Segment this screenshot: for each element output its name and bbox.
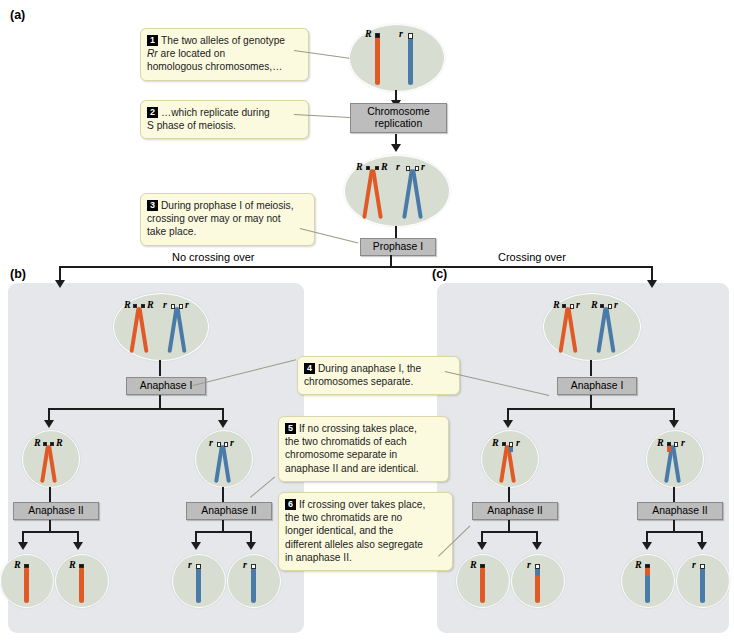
arrow-branch-right [647, 280, 657, 288]
callout-3-line3: take place. [147, 226, 196, 237]
callout-6-line3: longer identical, and the [285, 525, 393, 536]
callout-6-line2: the two chromatids are no [285, 512, 402, 523]
callout-2-line1: …which replicate during [161, 107, 270, 118]
allele-label-b-d-right-r2: r [230, 437, 234, 448]
stage-b-anaphase-2-left: Anaphase II [13, 502, 99, 520]
callout-3-number: 3 [147, 200, 158, 211]
callout-5-line3: chromosome separate in [285, 449, 397, 460]
stage-prophase-1: Prophase I [360, 238, 436, 256]
connector-c-split [507, 408, 674, 410]
branch-label-crossing-over: Crossing over [498, 251, 566, 263]
callout-5: 5If no crossing takes place, the two chr… [278, 416, 449, 482]
allele-label-c-gamete-1: R [470, 559, 477, 570]
allele-label-b-gamete-2: R [69, 559, 76, 570]
allele-label-b-gamete-4: r [243, 559, 247, 570]
stage-chromosome-replication: Chromosome replication [350, 103, 447, 133]
section-label-a: (a) [10, 8, 25, 22]
cell-a-unreplicated [349, 24, 445, 92]
callout-3-line2: crossing over may or may not [147, 213, 281, 224]
allele-label-c-gamete-3: R [635, 559, 642, 570]
callout-4-line1: During anaphase I, the [318, 363, 421, 374]
branch-label-no-crossing-over: No crossing over [172, 251, 255, 263]
arrow-c-g-l1 [477, 542, 487, 550]
allele-label-c-d-left-R: R [492, 437, 499, 448]
arrow-b-split-r [218, 420, 228, 428]
callout-5-line2: the two chromatids of each [285, 436, 407, 447]
allele-label-b-pro-R1: R [124, 299, 131, 310]
connector-b-g-r-bar [195, 531, 251, 533]
section-label-c: (c) [432, 267, 447, 281]
connector-b-2 [159, 395, 161, 409]
arrow-c-split-r [669, 420, 679, 428]
callout-6: 6If crossing over takes place, the two c… [278, 492, 453, 571]
callout-1: 1The two alleles of genotype Rr are loca… [140, 28, 309, 81]
connector-b-1 [159, 360, 161, 376]
allele-label-b-d-left-R2: R [56, 437, 63, 448]
callout-5-line4: anaphase II and are identical. [285, 463, 419, 474]
connector-c-a2-l [508, 487, 510, 502]
callout-2-line2: S phase of meiosis. [147, 120, 236, 131]
connector-c-g-r-bar [646, 531, 702, 533]
arrow-branch-left [55, 280, 65, 288]
allele-label-b-gamete-3: r [188, 559, 192, 570]
allele-label-a-rep-R1: R [356, 161, 363, 172]
allele-label-a-R: R [365, 28, 372, 39]
allele-label-c-d-right-R: R [657, 437, 664, 448]
connector-b-split [48, 408, 223, 410]
allele-label-c-gamete-2: r [527, 559, 531, 570]
arrow-c-g-r1 [642, 542, 652, 550]
connector-b-a2-l [49, 487, 51, 502]
section-label-b: (b) [10, 267, 26, 281]
allele-label-c-pro-R1: R [553, 299, 560, 310]
arrow-b-g-r1 [191, 542, 201, 550]
callout-6-line1: If crossing over takes place, [299, 499, 425, 510]
arrow-b-g-l1 [18, 542, 28, 550]
allele-label-c-d-right-r: r [681, 437, 685, 448]
allele-label-a-rep-r1: r [396, 161, 400, 172]
stage-chromosome-replication-line2: replication [375, 118, 422, 129]
connector-c-2 [590, 395, 592, 409]
arrow-b-g-l2 [73, 542, 83, 550]
allele-label-c-d-left-r: r [516, 437, 520, 448]
callout-1-genotype: Rr [147, 48, 158, 59]
allele-label-a-rep-R2: R [381, 161, 388, 172]
callout-5-number: 5 [285, 423, 296, 434]
stage-b-anaphase-2-right: Anaphase II [186, 502, 272, 520]
stage-c-anaphase-2-right: Anaphase II [637, 502, 723, 520]
allele-label-b-pro-R2: R [147, 299, 154, 310]
callout-2: 2…which replicate during S phase of meio… [140, 100, 309, 139]
allele-label-a-rep-r2: r [421, 161, 425, 172]
connector-c-a2-r [673, 487, 675, 502]
stage-chromosome-replication-line1: Chromosome [367, 106, 429, 117]
arrow-c-split-l [503, 420, 513, 428]
allele-label-b-d-right-r1: r [209, 437, 213, 448]
allele-label-c-gamete-4: r [692, 559, 696, 570]
allele-label-a-r: r [399, 28, 403, 39]
callout-6-line4: different alleles also segregate [285, 539, 423, 550]
connector-c-g-l-bar [481, 531, 537, 533]
stage-c-anaphase-2-left: Anaphase II [472, 502, 558, 520]
callout-6-number: 6 [285, 499, 296, 510]
callout-4-line2: chromosomes separate. [304, 376, 413, 387]
callout-6-line5: in anaphase II. [285, 552, 352, 563]
allele-label-c-pro-R2: R [591, 299, 598, 310]
connector-b-g-l-bar [22, 531, 78, 533]
callout-1-line1: The two alleles of genotype [161, 35, 285, 46]
callout-4-number: 4 [304, 363, 315, 374]
callout-2-number: 2 [147, 107, 158, 118]
allele-label-c-pro-r2: r [614, 299, 618, 310]
callout-3: 3During prophase I of meiosis, crossing … [140, 193, 315, 246]
allele-label-c-pro-r1: r [576, 299, 580, 310]
connector-branch-bar [59, 266, 652, 268]
callout-3-line1: During prophase I of meiosis, [161, 200, 294, 211]
callout-4: 4During anaphase I, the chromosomes sepa… [297, 356, 460, 395]
callout-1-number: 1 [147, 35, 158, 46]
stage-c-anaphase-1: Anaphase I [557, 377, 637, 395]
allele-label-b-pro-r2: r [185, 299, 189, 310]
callout-5-line1: If no crossing takes place, [299, 423, 417, 434]
callout-1-line3: homologous chromosomes,… [147, 61, 282, 72]
stage-b-anaphase-1: Anaphase I [126, 377, 206, 395]
arrow-b-split-l [44, 420, 54, 428]
connector-c-1 [590, 360, 592, 376]
arrow-a-2 [391, 144, 401, 152]
